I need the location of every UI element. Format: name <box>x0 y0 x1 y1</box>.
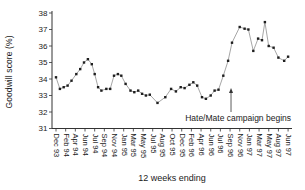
svg-text:Jul 96: Jul 96 <box>216 134 225 154</box>
svg-text:Jan 95: Jan 95 <box>120 134 129 157</box>
svg-text:34: 34 <box>39 75 48 84</box>
y-axis-ticks: 3132333435363738 <box>39 9 52 134</box>
svg-text:33: 33 <box>39 91 48 100</box>
svg-text:Jun 97: Jun 97 <box>284 134 293 157</box>
svg-text:Mar 97: Mar 97 <box>255 134 264 157</box>
svg-text:Sep 96: Sep 96 <box>226 134 235 158</box>
svg-text:Oct 95: Oct 95 <box>168 134 177 156</box>
annotation-arrow <box>229 88 233 112</box>
x-axis-title: 12 weeks ending <box>52 173 292 183</box>
campaign-annotation: Hate/Mate campaign begins <box>185 113 291 123</box>
svg-text:Feb 94: Feb 94 <box>62 134 71 157</box>
data-line <box>56 22 288 103</box>
svg-text:Dec 93: Dec 93 <box>52 134 61 158</box>
svg-text:Jun 94: Jun 94 <box>81 134 90 157</box>
svg-text:May 97: May 97 <box>265 134 274 159</box>
svg-text:Jan 97: Jan 97 <box>245 134 254 157</box>
svg-text:May 95: May 95 <box>139 134 148 159</box>
svg-text:Mar 95: Mar 95 <box>129 134 138 157</box>
svg-text:Feb 96: Feb 96 <box>187 134 196 157</box>
svg-text:Apr 96: Apr 96 <box>197 134 206 156</box>
svg-text:Aug 95: Aug 95 <box>158 134 167 158</box>
svg-text:Apr 94: Apr 94 <box>71 134 80 156</box>
svg-text:38: 38 <box>39 9 48 18</box>
svg-text:Jul 94: Jul 94 <box>91 134 100 154</box>
chart-figure: 3132333435363738Dec 93Feb 94Apr 94Jun 94… <box>0 0 305 190</box>
svg-text:37: 37 <box>39 25 48 34</box>
svg-text:Dec 95: Dec 95 <box>178 134 187 158</box>
y-axis-title: Goodwill score (%) <box>4 35 14 108</box>
svg-text:Aug 97: Aug 97 <box>274 134 283 158</box>
svg-text:36: 36 <box>39 42 48 51</box>
x-axis-ticks: Dec 93Feb 94Apr 94Jun 94Jul 94Sep 94Nov … <box>52 129 293 159</box>
svg-text:Jun 96: Jun 96 <box>207 134 216 157</box>
chart-plot: 3132333435363738Dec 93Feb 94Apr 94Jun 94… <box>0 0 305 190</box>
svg-text:35: 35 <box>39 58 48 67</box>
svg-text:Nov 96: Nov 96 <box>236 134 245 158</box>
svg-text:Nov 94: Nov 94 <box>110 134 119 158</box>
axes <box>52 11 292 129</box>
svg-text:31: 31 <box>39 124 48 133</box>
svg-text:Jul 95: Jul 95 <box>149 134 158 154</box>
svg-text:Sep 94: Sep 94 <box>100 134 109 158</box>
svg-text:32: 32 <box>39 108 48 117</box>
